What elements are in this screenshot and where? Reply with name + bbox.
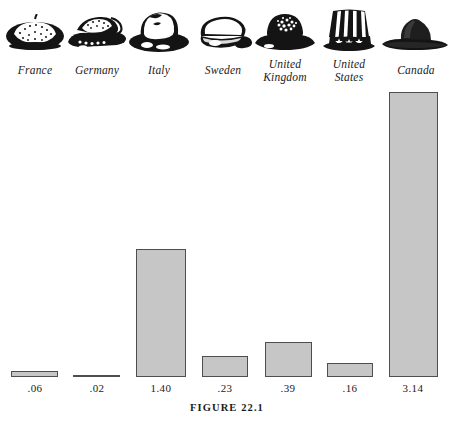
country-label-canada: Canada bbox=[382, 64, 450, 77]
hat-cell-canada bbox=[380, 0, 450, 56]
bar-france bbox=[11, 371, 58, 377]
country-label-sweden: Sweden bbox=[190, 64, 256, 77]
mountie-brim-hat-icon bbox=[381, 14, 449, 54]
fedora-hat-icon bbox=[127, 8, 191, 54]
country-label-line-2: States bbox=[335, 71, 364, 83]
country-label-italy: Italy bbox=[126, 64, 192, 77]
country-label-germany: Germany bbox=[62, 64, 132, 77]
bar-italy bbox=[136, 249, 186, 377]
value-label-sweden: .23 bbox=[194, 382, 256, 394]
hat-cell-united-kingdom bbox=[252, 0, 318, 56]
value-label-germany: .02 bbox=[66, 382, 128, 394]
bar-united-kingdom bbox=[265, 342, 312, 377]
value-label-italy: 1.40 bbox=[130, 382, 192, 394]
country-label-line-1: United bbox=[333, 58, 366, 70]
bar-canada bbox=[389, 92, 438, 377]
hat-cell-italy bbox=[126, 0, 192, 56]
tyrolean-hat-icon bbox=[65, 12, 129, 54]
figure-caption: FIGURE 22.1 bbox=[0, 402, 454, 413]
cap-hat-icon bbox=[191, 12, 255, 54]
hat-cell-france bbox=[2, 0, 68, 56]
country-label-united-states: United States bbox=[316, 58, 382, 83]
bar-germany bbox=[73, 375, 120, 377]
country-label-line-1: United bbox=[269, 58, 302, 70]
value-label-united-states: .16 bbox=[319, 382, 381, 394]
value-label-united-kingdom: .39 bbox=[257, 382, 319, 394]
country-label-united-kingdom: United Kingdom bbox=[252, 58, 318, 83]
hat-cell-germany bbox=[64, 0, 130, 56]
hat-cell-sweden bbox=[190, 0, 256, 56]
country-label-line-2: Kingdom bbox=[263, 71, 307, 83]
bar-sweden bbox=[202, 356, 248, 377]
figure-container: France Germany Italy Sweden United Kingd… bbox=[0, 0, 454, 424]
uncle-sam-top-hat-icon bbox=[319, 6, 379, 54]
country-label-france: France bbox=[2, 64, 68, 77]
value-label-france: .06 bbox=[4, 382, 66, 394]
hat-cell-united-states bbox=[316, 0, 382, 56]
beret-hat-icon bbox=[4, 14, 66, 54]
bar-united-states bbox=[327, 363, 373, 377]
bowler-hat-icon bbox=[253, 10, 317, 54]
value-label-canada: 3.14 bbox=[382, 382, 444, 394]
